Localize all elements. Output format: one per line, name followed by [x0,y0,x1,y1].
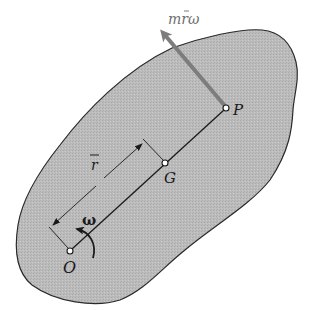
point-g-marker [162,160,168,166]
label-p: P [232,101,244,119]
label-o: O [63,258,76,277]
label-omega: ω [82,211,96,229]
rigid-body-shape [16,30,297,304]
label-g: G [164,169,176,187]
point-o-marker [67,248,73,254]
diagram-canvas: O G P r ω mrω [0,0,317,311]
label-momentum: mrω [168,11,200,27]
point-p-marker [223,105,229,111]
